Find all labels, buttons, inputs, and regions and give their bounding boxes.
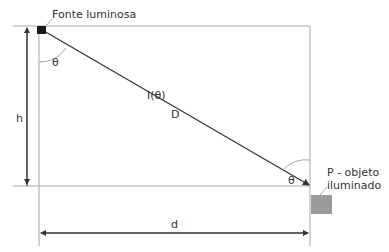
object-label-line2: iluminado [327, 180, 381, 192]
diagram-canvas [0, 0, 389, 252]
light-source-icon [37, 26, 46, 34]
illuminated-object-icon [311, 195, 332, 214]
height-label: h [16, 113, 23, 125]
angle-label-bottom: θ [288, 175, 295, 187]
ray-distance-label: D [171, 109, 179, 121]
source-label: Fonte luminosa [52, 9, 136, 21]
angle-label-top: θ [52, 57, 59, 69]
distance-label: d [171, 219, 178, 231]
object-label-line1: P - objeto [327, 167, 379, 179]
intensity-label: I(θ) [147, 90, 166, 102]
angle-arc-bottom [283, 160, 310, 170]
